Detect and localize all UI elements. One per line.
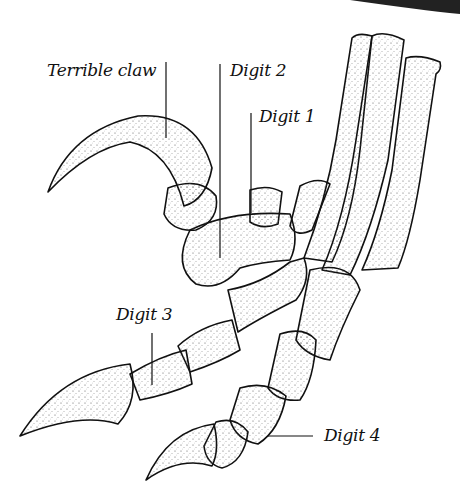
- digit-3-bone-3: [130, 350, 192, 400]
- digit-3-claw: [20, 364, 133, 436]
- label-digit-4: Digit 4: [324, 425, 380, 445]
- label-digit-1: Digit 1: [259, 106, 315, 126]
- terrible-claw-shape: [48, 116, 212, 206]
- label-terrible-claw: Terrible claw: [47, 60, 156, 80]
- label-digit-3: Digit 3: [116, 304, 172, 324]
- corner-hatch: [350, 0, 460, 14]
- foot-diagram: Terrible claw Digit 2 Digit 1 Digit 3 Di…: [0, 0, 460, 488]
- digit-4-claw: [146, 424, 217, 480]
- label-digit-2: Digit 2: [230, 60, 286, 80]
